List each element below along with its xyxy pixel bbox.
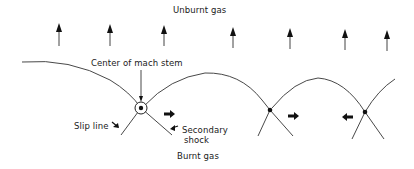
slip-line-2 bbox=[258, 110, 270, 136]
transverse-arrow-right-icon bbox=[288, 112, 299, 120]
center-of-mach-stem-label: Center of mach stem bbox=[91, 59, 183, 68]
unburnt-gas-label: Unburnt gas bbox=[173, 6, 226, 15]
flow-arrow-icon bbox=[107, 24, 113, 46]
mach-stem-center-marker bbox=[135, 102, 147, 114]
flow-arrow-icon bbox=[161, 25, 167, 46]
transverse-arrow-left-icon bbox=[342, 113, 353, 121]
flow-arrow-icon bbox=[230, 27, 236, 48]
flow-arrow-icon bbox=[342, 29, 348, 50]
secondary-shock-label-line2: shock bbox=[184, 136, 209, 145]
flow-arrows bbox=[56, 23, 390, 51]
slip-line-3 bbox=[352, 112, 365, 139]
burnt-gas-label: Burnt gas bbox=[177, 152, 219, 161]
triple-point-dot bbox=[363, 110, 368, 115]
transverse-arrow-right-icon bbox=[164, 110, 175, 118]
flow-arrow-icon bbox=[384, 30, 390, 51]
flow-arrow-icon bbox=[287, 28, 293, 49]
flow-arrow-icon bbox=[56, 23, 62, 46]
incident-shock-4 bbox=[365, 79, 395, 112]
center-pointer-arrow bbox=[139, 70, 143, 102]
triple-point-dot bbox=[268, 108, 273, 113]
slip-line-label: Slip line bbox=[74, 122, 108, 131]
slip-line-pointer-icon bbox=[112, 122, 119, 128]
secondary-shock-label-line1: Secondary bbox=[182, 126, 228, 135]
secondary-shock-pointer-icon bbox=[170, 125, 178, 131]
